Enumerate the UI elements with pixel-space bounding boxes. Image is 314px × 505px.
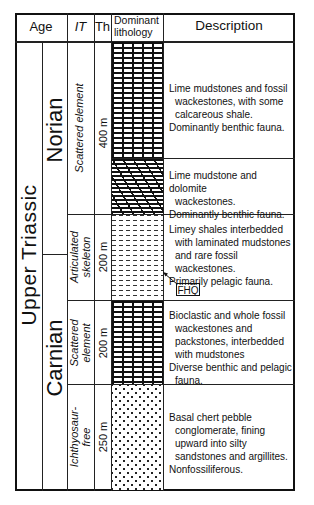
description-unit-1: Lime mudstones and fossil wackestones, w… bbox=[169, 82, 294, 134]
description-unit-4: Bioclastic and whole fossil wackestones … bbox=[169, 309, 294, 387]
lithology-limey-shale bbox=[112, 215, 163, 300]
unit-boundary-3 bbox=[67, 300, 295, 301]
fhq-marker-label: FHQ bbox=[176, 283, 200, 296]
divider-th bbox=[94, 13, 95, 491]
stage-boundary bbox=[42, 254, 67, 255]
thickness-400m: 400 m bbox=[97, 118, 109, 149]
header-lithology-line2: lithology bbox=[114, 27, 164, 39]
header-lithology: Dominant lithology bbox=[114, 15, 164, 38]
description-unit-3: Limey shales interbedded with laminated … bbox=[169, 223, 294, 288]
it-articulated-skeleton: Articulated skeleton bbox=[69, 231, 92, 283]
lithology-dolomite-wackestone bbox=[112, 159, 163, 214]
stage-norian: Norian bbox=[42, 98, 68, 163]
lithology-lime-mudstone bbox=[112, 42, 163, 158]
header-it: IT bbox=[67, 20, 94, 34]
it-scattered-element-carnian: Scattered element bbox=[69, 319, 92, 366]
stage-carnian: Carnian bbox=[42, 319, 68, 396]
lithology-bioclastic-limestone bbox=[112, 301, 163, 384]
header-description: Description bbox=[163, 19, 295, 34]
it-ichthyosaur-free: Ichthyosaur- free bbox=[69, 407, 92, 467]
thickness-200m-articulated: 200 m bbox=[97, 242, 109, 273]
lithology-conglomerate-sandstone bbox=[112, 385, 163, 490]
description-unit-2: Lime mudstone and dolomite wackestones. … bbox=[169, 169, 294, 221]
description-unit-5: Basal chert pebble conglomerate, fining … bbox=[169, 411, 294, 476]
thickness-250m: 250 m bbox=[97, 422, 109, 453]
header-th: Th bbox=[94, 20, 111, 34]
header-age: Age bbox=[15, 20, 67, 34]
thickness-200m-scattered: 200 m bbox=[97, 328, 109, 359]
divider-description bbox=[163, 13, 164, 491]
period-label: Upper Triassic bbox=[17, 184, 41, 325]
header-lithology-line1: Dominant bbox=[114, 15, 164, 27]
it-scattered-element-norian: Scattered element bbox=[74, 83, 86, 172]
